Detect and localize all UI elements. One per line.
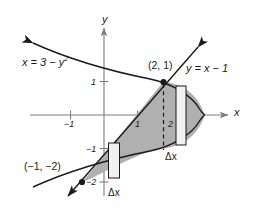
point-neg1-neg2-dot [79, 179, 85, 185]
x-tick-label-1: 1 [135, 120, 140, 129]
y-tick-label-1: 1 [91, 78, 96, 87]
y-tick-label-neg2: −2 [86, 178, 96, 187]
y-tick-label-neg1: −1 [86, 145, 96, 154]
left-strip-label: Δx [108, 188, 120, 198]
point-label-neg1-neg2: (−1, −2) [24, 161, 61, 172]
area-between-curves-figure [0, 0, 259, 211]
line-equation-label: y = x − 1 [186, 63, 228, 74]
point-2-1-dot [160, 79, 166, 85]
parabola-equation-exponent: 2 [64, 54, 68, 63]
x-tick-label-2: 2 [168, 120, 173, 129]
parabola-equation-label: x = 3 − y2 [22, 57, 68, 68]
left-strip [109, 143, 120, 178]
point-label-2-1: (2, 1) [148, 60, 173, 71]
parabola-equation-text: x = 3 − y [22, 56, 64, 68]
right-strip [176, 86, 186, 145]
y-axis-label: y [102, 14, 108, 25]
x-tick-label-neg1: −1 [64, 120, 74, 129]
right-strip-label: Δx [165, 152, 177, 162]
x-axis-label: x [234, 107, 240, 118]
